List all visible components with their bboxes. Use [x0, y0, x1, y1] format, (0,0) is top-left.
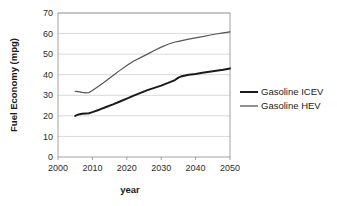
y-tick-label: 60	[43, 29, 53, 39]
x-tick-label: 2010	[82, 163, 102, 173]
y-axis-title: Fuel Economy (mpg)	[8, 38, 19, 132]
x-tick-label: 2020	[117, 163, 137, 173]
x-tick-label: 2050	[220, 163, 240, 173]
chart-canvas: 010203040506070 200020102020203020402050…	[0, 0, 337, 206]
y-tick-label: 40	[43, 70, 53, 80]
y-tick-label: 10	[43, 132, 53, 142]
y-tick-label: 50	[43, 49, 53, 59]
x-tick-label: 2000	[48, 163, 68, 173]
y-tick-label: 30	[43, 90, 53, 100]
x-tick-label: 2030	[151, 163, 171, 173]
x-tick-label: 2040	[186, 163, 206, 173]
legend-label-gasoline-icev: Gasoline ICEV	[261, 86, 324, 97]
x-axis-title: year	[120, 184, 140, 195]
y-tick-label: 0	[48, 152, 53, 162]
y-tick-label: 20	[43, 111, 53, 121]
y-tick-label: 70	[43, 8, 53, 18]
chart-figure: 010203040506070 200020102020203020402050…	[0, 0, 337, 206]
legend-label-gasoline-hev: Gasoline HEV	[261, 100, 321, 111]
